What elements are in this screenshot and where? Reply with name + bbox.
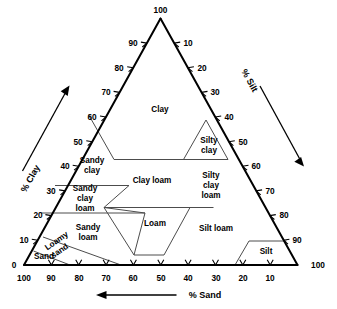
right-hundred-value: 100 [311,260,325,270]
left-zero-value: 0 [12,260,17,270]
class-label-silty-clay-loam-line2: clay [203,181,219,190]
class-label-clay: Clay [151,105,169,114]
class-label-sandy-loam-line2: loam [78,233,97,242]
right-tick-80: 80 [279,210,289,220]
sand-axis-arrow [96,291,177,299]
bottom-tick-70: 70 [101,273,111,283]
class-label-silty-clay-line2: clay [201,146,217,155]
left-tick-60: 60 [87,112,97,122]
silt-axis-title: % Silt [239,67,260,93]
right-tick-60: 60 [251,161,261,171]
bottom-axis-tick-labels: 90 80 70 60 50 40 30 20 10 [46,273,275,283]
triangle-outline [24,19,298,266]
class-label-loam: Loam [144,219,166,228]
sand-axis-title: % Sand [189,290,222,300]
left-tick-70: 70 [101,87,111,97]
class-label-sandy-clay-loam-line2: clay [77,194,93,203]
left-axis-tick-labels: 90 80 70 60 50 40 30 20 10 [19,38,138,245]
class-label-silt-loam: Silt loam [199,224,233,233]
left-hundred-value: 100 [17,273,31,283]
clay-axis-arrow [23,85,70,171]
bottom-tick-10: 10 [265,273,275,283]
soil-texture-triangle-figure: 100 0 100 100 90 80 70 60 50 40 30 20 10… [0,0,337,309]
bottom-tick-30: 30 [211,273,221,283]
left-tick-10: 10 [19,235,29,245]
bottom-tick-90: 90 [46,273,56,283]
apex-value: 100 [154,5,168,15]
class-label-sandy-clay-loam-line1: Sandy [73,184,98,193]
bottom-tick-20: 20 [238,273,248,283]
left-tick-40: 40 [60,161,70,171]
class-label-silty-clay-loam-line1: Silty [202,171,220,180]
right-tick-70: 70 [265,186,275,196]
class-label-silt: Silt [260,247,273,256]
class-label-sandy-loam-line1: Sandy [76,223,101,232]
class-label-sandy-clay-line1: Sandy [80,156,105,165]
bottom-tick-40: 40 [183,273,193,283]
left-tick-30: 30 [46,186,56,196]
class-boundaries [34,115,287,265]
right-tick-30: 30 [210,87,220,97]
bottom-tick-80: 80 [74,273,84,283]
class-label-clay-loam: Clay loam [133,176,172,185]
class-label-sandy-clay-loam-line3: loam [75,204,94,213]
class-label-sandy-clay-line2: clay [84,166,100,175]
left-tick-50: 50 [73,137,83,147]
bottom-tick-50: 50 [156,273,166,283]
right-tick-90: 90 [292,235,302,245]
class-label-silty-clay-loam-line3: loam [201,191,220,200]
class-label-sand: Sand [34,252,54,261]
right-tick-10: 10 [183,38,193,48]
class-label-silty-clay-line1: Silty [200,136,218,145]
right-tick-50: 50 [238,137,248,147]
left-tick-80: 80 [114,63,124,73]
bottom-tick-60: 60 [128,273,138,283]
clay-axis-title: % Clay [19,163,42,194]
silt-axis-arrow [260,86,304,167]
right-tick-40: 40 [224,112,234,122]
right-tick-20: 20 [197,63,207,73]
left-tick-90: 90 [128,38,138,48]
left-tick-20: 20 [33,210,43,220]
soil-triangle-svg: 100 0 100 100 90 80 70 60 50 40 30 20 10… [0,0,337,309]
